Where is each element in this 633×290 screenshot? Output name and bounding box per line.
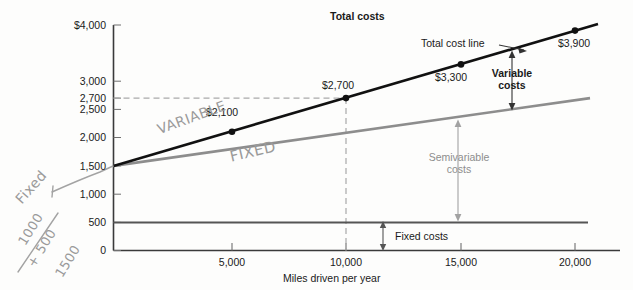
fixed-costs-double-arrow	[380, 221, 386, 251]
data-label-2700: $2,700	[322, 79, 354, 91]
x-tick-label-20000: 20,000	[545, 256, 605, 268]
variable-costs-label-line1: Variable	[478, 67, 546, 79]
x-tick-label-10000: 10,000	[316, 256, 376, 268]
data-point-20000	[572, 27, 579, 34]
series-semivariable-line	[114, 98, 591, 166]
data-label-3900: $3,900	[558, 37, 590, 49]
data-label-3300: $3,300	[435, 71, 467, 83]
chart-figure: Total costs $4,000 3,000 2,700 2,500 2,0…	[0, 0, 633, 290]
semivariable-costs-label-line2: costs	[404, 163, 514, 175]
semivariable-costs-label-line1: Semivariable	[404, 151, 514, 163]
data-point-10000	[343, 95, 350, 102]
variable-costs-label-line2: costs	[478, 79, 546, 91]
data-point-15000	[458, 61, 465, 68]
y-tick-label-4000: $4,000	[48, 19, 106, 31]
data-point-5000	[229, 129, 236, 136]
x-tick-label-5000: 5,000	[202, 256, 262, 268]
y-tick-label-3000: 3,000	[48, 75, 106, 87]
y-tick-label-1000: 1,000	[48, 188, 106, 200]
series-total-cost-line	[114, 24, 599, 166]
y-tick-marks	[114, 25, 122, 251]
total-cost-line-callout: Total cost line	[421, 37, 485, 49]
x-tick-label-15000: 15,000	[431, 256, 491, 268]
x-tick-marks	[232, 243, 575, 251]
y-tick-label-2500: 2,500	[48, 103, 106, 115]
fixed-costs-label: Fixed costs	[395, 230, 448, 242]
y-tick-label-500: 500	[48, 216, 106, 228]
y-tick-label-2000: 2,000	[48, 131, 106, 143]
x-axis-title: Miles driven per year	[283, 272, 380, 284]
chart-title: Total costs	[330, 10, 385, 22]
y-tick-label-1500: 1,500	[48, 160, 106, 172]
